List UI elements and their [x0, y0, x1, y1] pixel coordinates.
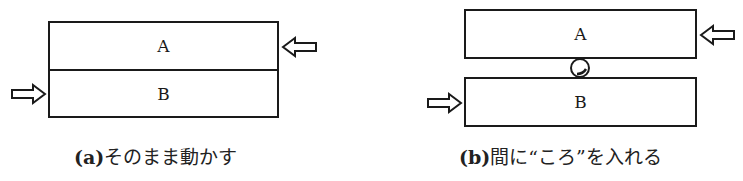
caption-a-text: そのまま動かす	[104, 146, 237, 168]
block-b: B	[464, 77, 697, 127]
block-b-label: B	[574, 92, 587, 112]
caption-a-label: (a)	[74, 146, 104, 168]
block-a: A	[464, 9, 697, 59]
panel-a-direct-contact: A B (a)そのまま動かす	[0, 0, 370, 181]
arrow-right-icon	[426, 93, 462, 113]
caption-b-text: 間に“ころ”を入れる	[490, 146, 661, 168]
caption-a: (a)そのまま動かす	[74, 142, 237, 169]
block-a-label: A	[574, 24, 586, 44]
block-b-label: B	[157, 84, 170, 104]
block-a: A	[48, 21, 279, 71]
caption-b: (b)間に“ころ”を入れる	[459, 142, 662, 169]
caption-b-label: (b)	[459, 146, 490, 168]
roller-icon	[569, 57, 591, 79]
panel-b-with-roller: A B (b)間に“ころ”を入れる	[370, 0, 743, 181]
arrow-right-icon	[10, 84, 46, 104]
arrow-left-icon	[282, 37, 318, 57]
arrow-left-icon	[700, 25, 736, 45]
block-b: B	[48, 69, 279, 118]
block-a-label: A	[157, 36, 169, 56]
